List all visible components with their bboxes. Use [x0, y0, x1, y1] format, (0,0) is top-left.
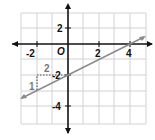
- y-tick-2: 2: [57, 23, 63, 34]
- run-label: 2: [44, 63, 50, 74]
- grid: [21, 13, 146, 124]
- x-tick-2: 2: [95, 48, 101, 59]
- coordinate-plane: -2 2 4 2 -2 -4 O 2 1: [0, 0, 155, 140]
- rise-label: 1: [29, 81, 35, 92]
- axes: [12, 5, 152, 133]
- x-tick-4: 4: [126, 48, 132, 59]
- y-tick-neg4: -4: [52, 101, 61, 112]
- x-tick-neg2: -2: [26, 48, 35, 59]
- tick-labels: -2 2 4 2 -2 -4 O: [26, 23, 132, 112]
- slope-labels: 2 1: [29, 63, 50, 92]
- origin-label: O: [57, 46, 65, 57]
